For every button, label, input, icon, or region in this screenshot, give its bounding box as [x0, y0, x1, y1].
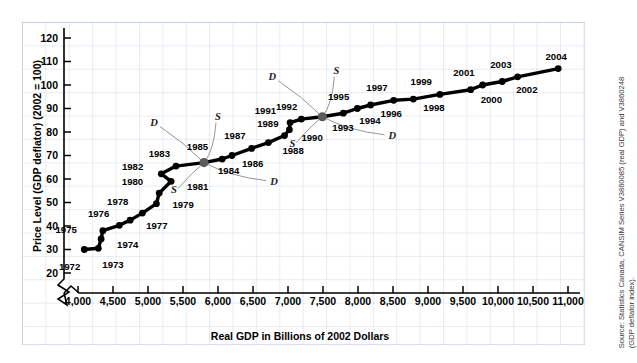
data-point	[514, 73, 521, 80]
x-axis-title: Real GDP in Billions of 2002 Dollars	[0, 330, 600, 342]
demand-label-upper: D	[268, 71, 277, 82]
data-point	[199, 158, 208, 167]
y-tick-label: 90	[46, 102, 58, 114]
year-label: 1981	[187, 181, 209, 192]
data-point	[81, 246, 88, 253]
y-tick-label: 50	[46, 196, 58, 208]
x-tick-label: 10,000	[482, 295, 514, 307]
year-label: 1973	[102, 259, 123, 270]
data-point	[127, 217, 134, 224]
data-point	[156, 190, 163, 197]
year-label: 2004	[546, 51, 568, 62]
data-point	[437, 91, 444, 98]
data-point	[410, 96, 417, 103]
x-tick-label: 4,500	[100, 295, 126, 307]
year-label: 1999	[411, 76, 432, 87]
year-label: 1986	[242, 158, 263, 169]
x-tick-label: 4,000	[65, 295, 91, 307]
data-point	[158, 170, 165, 177]
year-label: 1985	[187, 141, 209, 152]
year-label: 1984	[218, 165, 240, 176]
demand-label-lower: D	[269, 176, 278, 187]
year-label: 1979	[172, 199, 193, 210]
data-point	[479, 82, 486, 89]
demand-label-lower: D	[388, 130, 397, 141]
year-label: 1990	[301, 132, 322, 143]
y-tick-label: 20	[46, 267, 58, 279]
y-tick-label: 80	[46, 126, 58, 138]
data-point	[99, 227, 106, 234]
data-point	[340, 110, 347, 117]
year-label: 1998	[423, 102, 445, 113]
data-point	[95, 245, 102, 252]
data-point	[265, 139, 272, 146]
data-point	[229, 152, 236, 159]
x-tick-label: 7,500	[310, 295, 336, 307]
x-tick-label: 7,000	[275, 295, 301, 307]
data-point	[139, 210, 146, 217]
year-label: 1975	[56, 224, 78, 235]
data-point	[555, 65, 562, 72]
curve-letter-labels: DSSDDSSD	[149, 65, 396, 195]
year-label: 2001	[453, 67, 475, 78]
supply-label-upper: S	[215, 111, 221, 122]
x-tick-label: 8,000	[345, 295, 371, 307]
year-label: 1983	[149, 148, 170, 159]
data-point	[98, 236, 105, 243]
data-point	[499, 78, 506, 85]
year-label: 2000	[481, 94, 502, 105]
x-tick-label: 5,500	[170, 295, 196, 307]
year-label: 2002	[516, 84, 537, 95]
data-point	[219, 156, 226, 163]
year-label: 1994	[359, 115, 381, 126]
year-label: 1978	[107, 196, 129, 207]
x-tick-label: 11,000	[552, 295, 584, 307]
year-label: 2003	[490, 59, 511, 70]
year-label: 1991	[255, 105, 277, 116]
data-point	[281, 132, 288, 139]
y-tick-label: 110	[41, 55, 58, 67]
data-point	[173, 163, 180, 170]
data-point	[287, 119, 294, 126]
year-label: 1982	[122, 161, 143, 172]
y-axis-ticks: 2030405060708090100110120	[40, 32, 71, 279]
supply-label-lower: S	[289, 138, 295, 149]
x-tick-label: 9,000	[415, 295, 441, 307]
data-point	[116, 222, 123, 229]
year-label: 1996	[381, 108, 402, 119]
x-tick-label: 6,500	[240, 295, 266, 307]
x-axis-ticks: 4,0004,5005,0005,5006,0006,5007,0007,500…	[65, 286, 584, 307]
year-label: 1993	[332, 122, 353, 133]
data-point	[248, 145, 255, 152]
year-label: 1972	[59, 261, 80, 272]
y-tick-label: 60	[46, 173, 58, 185]
data-point	[318, 112, 327, 121]
x-tick-label: 9,500	[450, 295, 476, 307]
year-label: 1997	[366, 82, 387, 93]
supply-label-upper: S	[333, 65, 339, 76]
year-label: 1977	[146, 220, 167, 231]
y-tick-label: 120	[40, 32, 58, 44]
source-line-2: (GDP deflator index).	[627, 277, 636, 348]
chart-figure: 2030405060708090100110120 4,0004,5005,00…	[0, 0, 637, 363]
supply-label-lower: S	[171, 184, 177, 195]
demand-label-upper: D	[149, 117, 158, 128]
y-tick-label: 70	[46, 149, 58, 161]
y-axis-title: Price Level (GDP deflator) (2002 = 100)	[31, 26, 43, 286]
x-tick-label: 8,500	[380, 295, 406, 307]
x-tick-label: 10,500	[517, 295, 549, 307]
y-tick-label: 30	[46, 243, 58, 255]
plot-area: 2030405060708090100110120 4,0004,5005,00…	[0, 0, 637, 363]
data-point	[390, 97, 397, 104]
source-line-1: Source: Statistics Canada, CANSIM Series…	[617, 77, 626, 348]
year-label: 1974	[117, 239, 139, 250]
data-point	[467, 86, 474, 93]
year-label: 1980	[122, 176, 143, 187]
year-label: 1987	[224, 130, 245, 141]
year-label: 1995	[328, 91, 350, 102]
year-label: 1992	[276, 101, 297, 112]
year-label: 1989	[257, 118, 278, 129]
data-point	[367, 102, 374, 109]
data-point	[298, 116, 305, 123]
x-tick-label: 5,000	[135, 295, 161, 307]
